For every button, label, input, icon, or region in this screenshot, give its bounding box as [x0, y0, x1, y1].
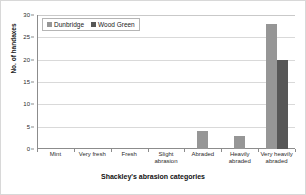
x-axis-labels: MintVery freshFreshSlightabrasionAbraded…	[37, 151, 295, 165]
bar-group	[111, 15, 148, 149]
x-tick-label: Heavilyabraded	[221, 151, 258, 165]
x-tick-label-line: Very heavily	[259, 151, 294, 158]
y-tick-mark	[31, 15, 34, 16]
x-tick-label-line: Mint	[38, 151, 73, 158]
bar-dunbridge[interactable]	[266, 24, 277, 149]
legend-label: Dunbridge	[54, 21, 84, 28]
y-tick-label: 0	[27, 146, 30, 152]
chart-legend: DunbridgeWood Green	[42, 18, 140, 31]
x-tick-label-line: Fresh	[112, 151, 147, 158]
x-tick-label-line: Heavily	[222, 151, 257, 158]
legend-entry[interactable]: Dunbridge	[47, 21, 84, 28]
legend-entry[interactable]: Wood Green	[91, 21, 135, 28]
bar-dunbridge[interactable]	[234, 136, 245, 149]
legend-label: Wood Green	[98, 21, 135, 28]
x-axis-title: Shackley's abrasion categories	[1, 173, 305, 180]
bar-group	[74, 15, 111, 149]
x-tick-label-line: Abraded	[185, 151, 220, 158]
y-tick-mark	[31, 59, 34, 60]
y-axis: 051015202530	[1, 15, 34, 149]
legend-swatch-icon	[47, 22, 52, 27]
legend-swatch-icon	[91, 22, 96, 27]
y-axis-title: No. of handaxes	[10, 11, 17, 87]
y-tick-mark	[31, 104, 34, 105]
bar-group	[258, 15, 295, 149]
x-tick-label: Very heavilyabraded	[258, 151, 295, 165]
x-tick-mark	[295, 149, 296, 152]
y-tick-mark	[31, 37, 34, 38]
x-tick-label-line: Slight	[149, 151, 184, 158]
x-tick-label: Mint	[37, 151, 74, 165]
y-tick-label: 10	[23, 101, 30, 107]
bar-wood-green[interactable]	[277, 60, 288, 149]
x-tick-label-line: abraded	[222, 158, 257, 165]
bars-layer	[37, 15, 295, 149]
y-tick-label: 15	[23, 79, 30, 85]
bar-chart-figure: 051015202530 No. of handaxes MintVery fr…	[0, 0, 306, 195]
y-tick-mark	[31, 149, 34, 150]
x-tick-label: Fresh	[111, 151, 148, 165]
bar-group	[221, 15, 258, 149]
y-tick-mark	[31, 82, 34, 83]
bar-group	[37, 15, 74, 149]
x-tick-label-line: abraded	[259, 158, 294, 165]
x-tick-label-line: abrasion	[149, 158, 184, 165]
x-tick-label: Abraded	[184, 151, 221, 165]
bar-group	[184, 15, 221, 149]
x-tick-label: Slightabrasion	[148, 151, 185, 165]
y-tick-mark	[31, 126, 34, 127]
bar-dunbridge[interactable]	[197, 131, 208, 149]
y-tick-label: 30	[23, 12, 30, 18]
x-tick-label-line: Very fresh	[75, 151, 110, 158]
bar-group	[148, 15, 185, 149]
x-tick-label: Very fresh	[74, 151, 111, 165]
y-tick-label: 20	[23, 57, 30, 63]
y-tick-label: 25	[23, 34, 30, 40]
y-tick-label: 5	[27, 124, 30, 130]
